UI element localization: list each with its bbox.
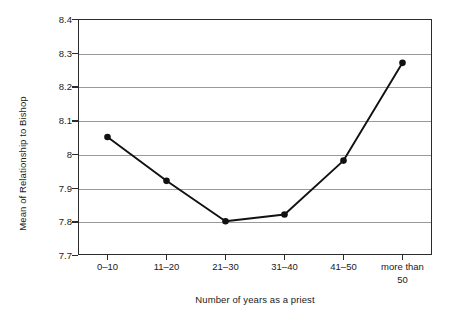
plot-area [78,19,432,255]
gridline [79,155,431,156]
x-tick-mark [284,255,285,260]
line-chart-figure: Mean of Relationship to Bishop 8.48.38.2… [0,0,452,327]
gridline [79,189,431,190]
y-tick-label: 8.1 [12,115,72,126]
x-tick-mark [343,255,344,260]
y-axis-title: Mean of Relationship to Bishop [0,0,44,327]
x-axis-title: Number of years as a priest [78,294,432,305]
y-tick-label: 7.7 [12,250,72,261]
x-tick-label: 11–20 [122,261,212,274]
x-tick-mark [402,255,403,260]
gridline [79,54,431,55]
y-tick-label: 7.9 [12,182,72,193]
gridline [79,222,431,223]
y-tick-label: 8.2 [12,81,72,92]
y-tick-mark [72,255,78,256]
y-tick-label: 8 [12,148,72,159]
y-tick-label: 8.4 [12,14,72,25]
x-tick-mark [225,255,226,260]
x-tick-label: 31–40 [240,261,330,274]
x-tick-label: 21–30 [181,261,271,274]
x-tick-mark [166,255,167,260]
x-tick-label: 0–10 [63,261,153,274]
gridline [79,87,431,88]
x-tick-label: more than 50 [358,261,448,286]
y-tick-label: 8.3 [12,47,72,58]
x-tick-label: 41–50 [299,261,389,274]
y-tick-label: 7.8 [12,216,72,227]
x-tick-mark [107,255,108,260]
gridline [79,121,431,122]
